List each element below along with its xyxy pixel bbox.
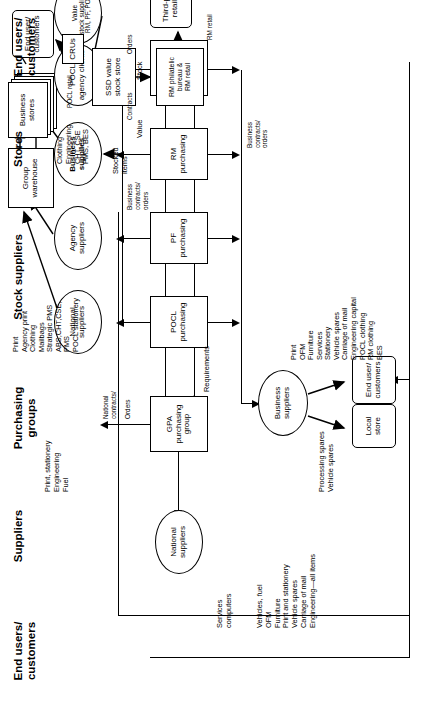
- arrowhead-rm-purchasing-down: [232, 151, 240, 159]
- node-third-party-retailers[interactable]: Third-party retailers: [150, 0, 192, 28]
- annotation-bottom-items-list: Print OFM Furniture Services Stationery …: [290, 268, 384, 360]
- annotation-lower-items-list: Vehicles, fuel OFM Furniture Print and s…: [256, 512, 318, 628]
- node-label: PF purchasing: [170, 218, 188, 257]
- node-label: Third-party retailers: [162, 0, 180, 22]
- node-rm-purchasing[interactable]: RM purchasing: [150, 128, 208, 180]
- annotation-value-stock-suppliers-sub: RM, PF, POCL: [84, 0, 92, 40]
- node-business-suppliers[interactable]: Business suppliers: [258, 370, 308, 436]
- annotation-pocl-retail: POCL retail: [66, 60, 74, 108]
- annotation-processing-vehicle-spares: Processing spares Vehicle spares: [318, 396, 336, 492]
- node-label: Business suppliers: [274, 387, 292, 419]
- annotation-requirements: Requirements: [203, 320, 212, 392]
- diagram-canvas: End users/ customers Suppliers Purchasin…: [0, 0, 432, 704]
- annotation-clothing-engineering-list: Clothing Engineering CHT, CSE PMS, BES: [56, 100, 91, 164]
- arrowhead-pocl-purchasing-down: [232, 319, 240, 327]
- arrowhead-pf-purchasing-down: [232, 235, 240, 243]
- node-label: National suppliers: [170, 526, 188, 558]
- node-label: SSD value stock store: [105, 58, 123, 97]
- annotation-orders-right: Orders: [126, 8, 134, 54]
- node-label: RM purchasing: [170, 134, 188, 173]
- annotation-orders-upper: orders: [142, 164, 150, 210]
- node-rm-philatelic-bureau[interactable]: RM philatelic bureau & RM retail: [156, 48, 204, 106]
- node-national-suppliers-lower[interactable]: National suppliers: [155, 510, 203, 574]
- node-pf-purchasing[interactable]: PF purchasing: [150, 212, 208, 264]
- node-label: GPA purchasing group: [166, 404, 192, 443]
- node-label: Local store: [365, 416, 383, 435]
- annotation-business-contracts-orders-lower: Business contracts/ orders: [246, 86, 269, 148]
- arrowhead-pf-purchasing-up: [116, 235, 124, 243]
- column-heading-purchasing-groups: Purchasing groups: [12, 375, 38, 461]
- arrowhead-group-services-down: [232, 66, 240, 74]
- annotation-stocked-items: Stocked items: [112, 128, 130, 174]
- annotation-national-contracts: National contracts/: [102, 361, 117, 419]
- column-heading-stock-suppliers: Stock suppliers: [12, 222, 25, 332]
- annotation-stock: Stock: [136, 34, 145, 80]
- annotation-services-computers: Services computers: [216, 558, 234, 628]
- column-heading-suppliers: Suppliers: [12, 493, 25, 579]
- arrowhead-to-national-suppliers-upper: [100, 422, 108, 430]
- column-heading-end-users-left: End users/ customers: [12, 608, 38, 694]
- edge-business-suppliers-to-end-user-bottom: [308, 382, 344, 394]
- annotation-value: Value: [136, 92, 145, 138]
- diagram-page: End users/ customers Suppliers Purchasin…: [0, 0, 432, 704]
- node-pocl-purchasing[interactable]: POCL purchasing: [150, 296, 208, 348]
- node-label: RM philatelic bureau & RM retail: [168, 57, 191, 97]
- node-local-store[interactable]: Local store: [352, 404, 396, 448]
- node-end-user-customers-bottom[interactable]: End user/ customers: [352, 356, 396, 404]
- arrowhead-pocl-purchasing-up: [116, 319, 124, 327]
- node-label: POCL purchasing: [170, 302, 188, 341]
- annotation-print-stationery-engineering-fuel: Print, stationery Engineering Fuel: [44, 400, 70, 492]
- annotation-contracts: Contracts: [126, 68, 134, 120]
- node-gpa-purchasing-group[interactable]: GPA purchasing group: [150, 396, 208, 452]
- annotation-orders-left: Orders: [124, 375, 132, 419]
- node-label: CRUs: [69, 38, 78, 59]
- annotation-rm-retail: RM retail: [206, 0, 214, 40]
- column-heading-end-users-right: End users/ customers: [12, 4, 38, 90]
- node-label: End user/ customers: [365, 362, 383, 399]
- column-heading-stores: Stores: [12, 106, 25, 192]
